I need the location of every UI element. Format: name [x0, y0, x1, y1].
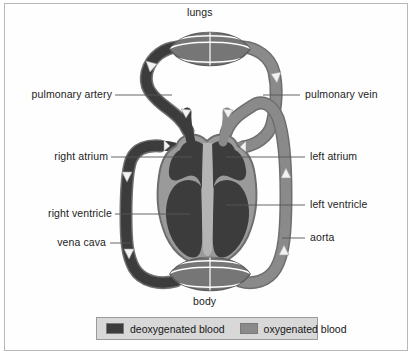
- left-atrium-label: left atrium: [310, 150, 357, 162]
- aorta-label: aorta: [310, 231, 334, 243]
- legend-label-oxygenated: oxygenated blood: [264, 323, 347, 335]
- body-label: body: [193, 295, 216, 307]
- legend: deoxygenated blood oxygenated blood: [96, 317, 318, 340]
- oxygenated-swatch: [240, 323, 258, 334]
- aortic-root: [223, 112, 227, 142]
- right-ventricle-label: right ventricle: [24, 207, 112, 219]
- heart-septum: [202, 143, 213, 256]
- legend-item-oxygenated: oxygenated blood: [240, 318, 347, 339]
- pulmonary-vein-label: pulmonary vein: [305, 88, 378, 100]
- pulmonary-artery-label: pulmonary artery: [14, 88, 112, 100]
- body-organ: [168, 253, 252, 295]
- heart-organ: [158, 112, 257, 266]
- deoxygenated-swatch: [106, 323, 124, 334]
- lungs-organ: [168, 28, 252, 70]
- vena-cava-label: vena cava: [36, 236, 106, 248]
- legend-label-deoxygenated: deoxygenated blood: [130, 323, 225, 335]
- pulmonary-trunk-root: [187, 112, 191, 142]
- right-atrium-label: right atrium: [30, 150, 108, 162]
- legend-item-deoxygenated: deoxygenated blood: [106, 318, 225, 339]
- left-ventricle-label: left ventricle: [310, 198, 367, 210]
- lungs-label: lungs: [187, 6, 213, 18]
- diagram-page: lungs body pulmonary artery pulmonary ve…: [0, 0, 415, 360]
